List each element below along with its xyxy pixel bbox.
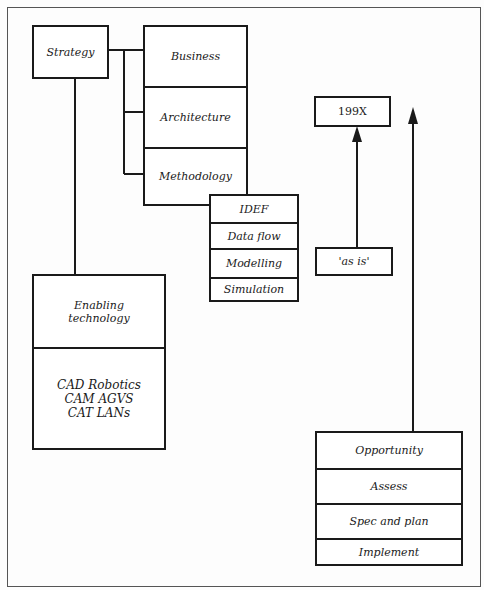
enabling-title-line2: technology — [68, 312, 129, 325]
arrowhead-icon — [408, 107, 418, 124]
enabling-items-line2: CAM AGVS — [64, 392, 133, 406]
enabling-title-cell: Enabling technology — [34, 276, 164, 347]
opportunity-cell: Opportunity — [317, 433, 461, 468]
target-state-label: 199X — [316, 98, 389, 125]
process-steps-stack: Opportunity Assess Spec and plan Impleme… — [315, 431, 463, 566]
target-state-box: 199X — [314, 96, 391, 127]
current-state-label: 'as is' — [317, 249, 391, 274]
implement-cell: Implement — [317, 538, 461, 564]
current-state-box: 'as is' — [315, 247, 393, 276]
enabling-items-line1: CAD Robotics — [57, 378, 141, 392]
strategy-label: Strategy — [34, 27, 107, 77]
data-flow-cell: Data flow — [211, 222, 297, 248]
idef-cell: IDEF — [211, 196, 297, 222]
business-cell: Business — [145, 27, 246, 86]
enabling-items-cell: CAD Robotics CAM AGVS CAT LANs — [34, 347, 164, 448]
spec-and-plan-cell: Spec and plan — [317, 503, 461, 538]
modelling-cell: Modelling — [211, 248, 297, 277]
arrowhead-icon — [352, 126, 362, 142]
strategy-areas-stack: Business Architecture Methodology — [143, 25, 248, 206]
enabling-title-line1: Enabling — [74, 299, 124, 312]
strategy-box: Strategy — [32, 25, 109, 79]
enabling-technology-stack: Enabling technology CAD Robotics CAM AGV… — [32, 274, 166, 450]
architecture-cell: Architecture — [145, 86, 246, 147]
simulation-cell: Simulation — [211, 277, 297, 300]
enabling-items-line3: CAT LANs — [68, 406, 130, 420]
methods-stack: IDEF Data flow Modelling Simulation — [209, 194, 299, 302]
assess-cell: Assess — [317, 468, 461, 503]
